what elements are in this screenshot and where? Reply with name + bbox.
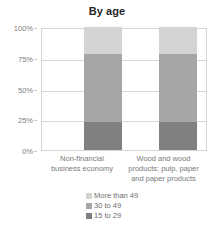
x-axis-category-label-line: business economy (41, 164, 123, 174)
x-axis-category-label-line: products; pulp, paper (120, 164, 207, 174)
x-axis-category-label: Non-financialbusiness economy (41, 154, 123, 174)
y-axis-tick-mark (34, 120, 37, 121)
y-axis-tick-mark (34, 59, 37, 60)
bar-segment[interactable] (159, 122, 197, 150)
legend-item[interactable]: More than 49 (0, 191, 214, 201)
x-axis-category-label-line: Non-financial (41, 154, 123, 164)
x-axis-category-label-line: Wood and wood (120, 154, 207, 164)
bar-group[interactable] (159, 27, 197, 150)
bar-segment[interactable] (84, 27, 122, 54)
y-axis-tick-label: 75% (18, 54, 33, 63)
legend-swatch-icon (86, 203, 92, 209)
bar-segment[interactable] (84, 122, 122, 150)
x-axis-category-labels: Non-financialbusiness economyWood and wo… (41, 154, 207, 192)
legend-item[interactable]: 30 to 49 (0, 201, 214, 211)
bar-segment[interactable] (159, 27, 197, 54)
y-axis: 100%75%50%25%0% (0, 28, 37, 151)
x-axis-category-label-line: and paper products (120, 174, 207, 184)
legend-item-label: 15 to 29 (94, 211, 121, 221)
legend-item[interactable]: 15 to 29 (0, 211, 214, 221)
chart-legend: More than 4930 to 4915 to 29 (0, 191, 214, 221)
plot-area (41, 28, 207, 151)
y-axis-tick-label: 100% (14, 24, 33, 33)
legend-item-label: 30 to 49 (94, 201, 121, 211)
chart-container: By age 100%75%50%25%0% Non-financialbusi… (0, 0, 214, 228)
chart-title: By age (0, 5, 214, 17)
y-axis-tick-mark (34, 28, 37, 29)
y-axis-tick-mark (34, 90, 37, 91)
y-axis-tick-label: 0% (22, 147, 33, 156)
legend-item-label: More than 49 (94, 191, 138, 201)
bar-segment[interactable] (84, 54, 122, 122)
y-axis-tick-label: 50% (18, 85, 33, 94)
bar-segment[interactable] (159, 54, 197, 122)
y-axis-tick-mark (34, 151, 37, 152)
y-axis-tick-label: 25% (18, 116, 33, 125)
legend-swatch-icon (86, 213, 92, 219)
legend-swatch-icon (86, 193, 92, 199)
bar-group[interactable] (84, 27, 122, 150)
x-axis-category-label: Wood and woodproducts; pulp, paperand pa… (120, 154, 207, 184)
